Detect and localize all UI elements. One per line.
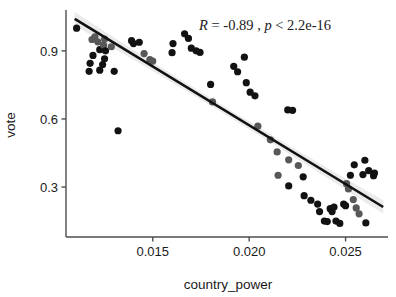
data-point xyxy=(350,196,357,203)
data-point xyxy=(234,68,241,75)
x-tick-label: 0.025 xyxy=(329,244,362,259)
data-point xyxy=(251,92,258,99)
data-point xyxy=(355,210,362,217)
data-point xyxy=(169,40,176,47)
data-point xyxy=(347,172,354,179)
correlation-p-symbol: p xyxy=(263,17,271,33)
y-axis-title: vote xyxy=(3,112,18,138)
scatter-plot-figure: 0.015 0.020 0.025 0.3 0.6 0.9 country_po… xyxy=(0,0,396,297)
correlation-p-operator: < xyxy=(272,17,287,33)
data-point xyxy=(295,162,302,169)
data-point xyxy=(243,79,250,86)
data-point xyxy=(275,172,282,179)
data-point xyxy=(274,148,281,155)
x-axis-title: country_power xyxy=(184,277,273,292)
data-point xyxy=(307,197,314,204)
data-point xyxy=(140,50,147,57)
data-point xyxy=(289,107,296,114)
data-point xyxy=(316,208,323,215)
data-point xyxy=(301,192,308,199)
data-point xyxy=(207,81,214,88)
x-tick-label: 0.015 xyxy=(137,244,170,259)
chart-canvas: 0.015 0.020 0.025 0.3 0.6 0.9 country_po… xyxy=(0,0,396,297)
data-point xyxy=(300,173,307,180)
y-tick-label: 0.6 xyxy=(40,112,58,127)
data-point xyxy=(324,218,331,225)
data-point xyxy=(73,25,80,32)
correlation-p-value: 2.2e-16 xyxy=(287,17,331,33)
data-point xyxy=(111,68,118,75)
correlation-r-value: -0.89 xyxy=(223,17,253,33)
data-point xyxy=(314,200,321,207)
y-tick-label: 0.3 xyxy=(40,180,58,195)
data-point xyxy=(285,156,292,163)
data-point xyxy=(342,202,349,209)
data-point xyxy=(351,161,358,168)
data-point xyxy=(330,203,337,210)
correlation-separator: , xyxy=(254,17,265,33)
data-point xyxy=(136,39,143,46)
data-point xyxy=(371,169,378,176)
data-point xyxy=(285,182,292,189)
correlation-annotation: R = -0.89 , p < 2.2e-16 xyxy=(198,17,331,33)
correlation-equals: = xyxy=(208,17,223,33)
y-tick-label: 0.9 xyxy=(40,44,58,59)
data-point xyxy=(336,220,343,227)
data-point xyxy=(361,157,368,164)
data-point xyxy=(196,49,203,56)
data-point xyxy=(89,52,96,59)
data-point xyxy=(114,127,121,134)
data-point xyxy=(87,60,94,67)
data-point xyxy=(96,67,103,74)
data-point xyxy=(168,49,175,56)
data-point xyxy=(362,219,369,226)
x-tick-label: 0.020 xyxy=(233,244,266,259)
data-point xyxy=(185,35,192,42)
correlation-r-symbol: R xyxy=(198,17,208,33)
data-point xyxy=(241,54,248,61)
data-point xyxy=(102,47,109,54)
data-point xyxy=(86,68,93,75)
